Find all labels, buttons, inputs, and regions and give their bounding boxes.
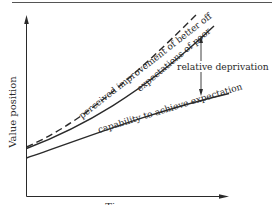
x-axis-arrow-icon <box>219 194 229 199</box>
y-axis <box>24 15 29 197</box>
relative-deprivation-diagram: Value position Time relative deprivation… <box>0 0 272 205</box>
x-axis <box>27 194 230 199</box>
y-axis-label: Value position <box>7 76 18 149</box>
x-axis-label: Time <box>105 201 130 205</box>
relative-deprivation-label: relative deprivation <box>177 61 269 72</box>
y-axis-arrow-icon <box>24 15 29 24</box>
